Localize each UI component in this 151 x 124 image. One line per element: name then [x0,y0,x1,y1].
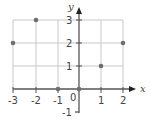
x-tick-label: -2 [31,95,41,106]
y-axis-arrow-icon [76,7,82,14]
data-points [11,18,126,92]
y-tick-label: -1 [62,107,72,118]
data-point [56,87,61,92]
y-tick-label: 3 [66,15,72,26]
x-tick-label: 2 [120,95,126,106]
x-tick-label: -1 [53,95,63,106]
y-axis-label: y [67,1,74,12]
x-ticks [13,87,123,93]
data-point [121,41,126,46]
x-tick-label: 1 [98,95,104,106]
x-axis-label: x [140,83,146,94]
data-point [77,87,82,92]
x-tick-label: -3 [8,95,18,106]
data-point [11,41,16,46]
data-point [34,18,39,23]
grid [13,20,123,89]
y-tick-label: 2 [66,38,72,49]
scatter-chart: x y -3 -2 -1 1 2 3 2 1 -1 0 [0,0,151,124]
y-tick-label: 1 [66,61,72,72]
origin-label: 0 [70,92,76,103]
x-axis-arrow-icon [129,86,136,92]
data-point [99,64,104,69]
